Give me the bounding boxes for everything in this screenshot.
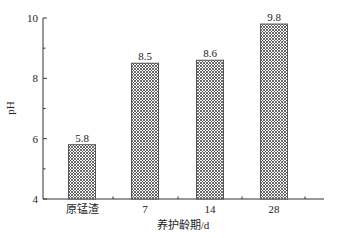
y-tick-label: 8 [33, 72, 39, 84]
bar [132, 63, 159, 199]
bar [261, 24, 288, 199]
data-label: 8.5 [138, 50, 152, 62]
bars [69, 24, 288, 199]
bar [69, 145, 96, 199]
x-tick-label: 7 [142, 203, 148, 215]
bar [197, 60, 224, 199]
x-tick-label: 14 [205, 203, 217, 215]
y-tick-label: 4 [33, 193, 39, 205]
y-tick-label: 6 [33, 133, 39, 145]
data-label: 5.8 [75, 132, 89, 144]
y-tick-label: 10 [27, 12, 39, 24]
data-label: 8.6 [203, 47, 217, 59]
data-label: 9.8 [267, 11, 281, 23]
x-axis-title: 养护龄期/d [157, 218, 210, 231]
x-tick-label: 28 [269, 203, 281, 215]
bar-chart: 468105.8原锰渣8.578.6149.828养护龄期/dpH [0, 0, 340, 238]
x-tick-label: 原锰渣 [66, 202, 99, 215]
y-axis-title: pH [4, 101, 16, 115]
